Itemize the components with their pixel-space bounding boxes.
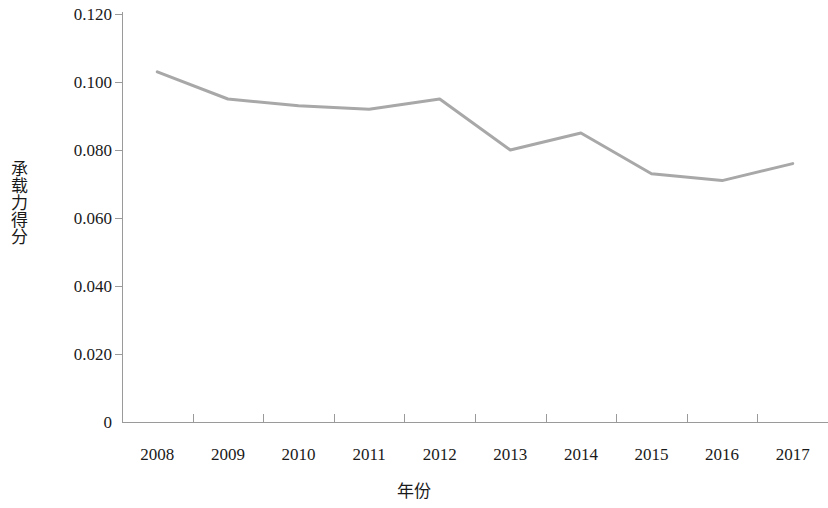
x-axis-tick-label: 2017: [758, 446, 828, 463]
x-axis-tick-mark: [263, 414, 264, 422]
series-line-layer: [0, 0, 828, 508]
y-axis-tick-label: 0.100: [34, 74, 112, 91]
y-axis-tick-mark: [115, 82, 122, 83]
y-axis-tick-mark: [115, 14, 122, 15]
x-axis-tick-mark: [546, 414, 547, 422]
x-axis-tick-label: 2016: [687, 446, 757, 463]
y-axis-tick-label: 0: [34, 414, 112, 431]
x-axis-tick-mark: [687, 414, 688, 422]
x-axis-tick-label: 2008: [122, 446, 192, 463]
x-axis-tick-label: 2012: [405, 446, 475, 463]
y-axis-tick-mark: [115, 286, 122, 287]
y-axis-tick-mark: [115, 218, 122, 219]
x-axis-tick-mark: [404, 414, 405, 422]
x-axis-tick-label: 2014: [546, 446, 616, 463]
x-axis-tick-label: 2011: [334, 446, 404, 463]
x-axis-tick-mark: [193, 414, 194, 422]
x-axis-line: [122, 422, 828, 423]
x-axis-tick-mark: [334, 414, 335, 422]
y-axis-line: [122, 12, 123, 423]
x-axis-title: 年份: [0, 482, 828, 501]
x-axis-tick-label: 2009: [193, 446, 263, 463]
y-axis-tick-label: 0.060: [34, 210, 112, 227]
y-axis-tick-mark: [115, 354, 122, 355]
x-axis-tick-label: 2013: [475, 446, 545, 463]
y-axis-tick-label: 0.120: [34, 6, 112, 23]
y-axis-tick-label: 0.080: [34, 142, 112, 159]
x-axis-tick-mark: [757, 414, 758, 422]
line-chart: 承载力得分 00.0200.0400.0600.0800.1000.120 20…: [0, 0, 828, 508]
y-axis-tick-label: 0.040: [34, 278, 112, 295]
series-line-carrying-capacity: [157, 72, 792, 181]
x-axis-tick-mark: [475, 414, 476, 422]
y-axis-title: 承载力得分: [2, 160, 28, 245]
x-axis-tick-mark: [616, 414, 617, 422]
x-axis-tick-label: 2010: [264, 446, 334, 463]
y-axis-tick-labels: 00.0200.0400.0600.0800.1000.120: [30, 0, 112, 440]
x-axis-tick-label: 2015: [617, 446, 687, 463]
y-axis-tick-mark: [115, 150, 122, 151]
y-axis-tick-label: 0.020: [34, 346, 112, 363]
